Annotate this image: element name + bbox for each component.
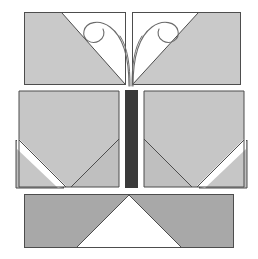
butterfly-figure-svg <box>0 0 258 259</box>
butterfly-figure-root <box>0 0 258 259</box>
body-bar-group <box>125 90 138 188</box>
middle-left-wing <box>16 91 119 188</box>
bottom-wing-band <box>25 195 234 248</box>
body-bar-rect <box>125 90 138 188</box>
middle-right-wing <box>144 91 247 188</box>
